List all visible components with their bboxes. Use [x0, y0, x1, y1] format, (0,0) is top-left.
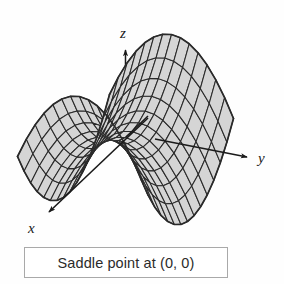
surface-plot: z x y: [0, 0, 284, 284]
caption-text: Saddle point at (0, 0): [58, 255, 195, 271]
caption-box: Saddle point at (0, 0): [24, 247, 228, 278]
z-axis-label: z: [119, 25, 126, 41]
x-axis-label: x: [27, 220, 35, 236]
saddle-surface-figure: z x y Saddle point at (0, 0): [0, 0, 284, 284]
y-axis-label: y: [256, 150, 265, 166]
